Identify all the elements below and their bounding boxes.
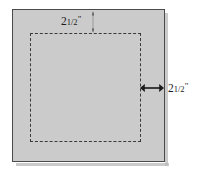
- square-shadow-bottom: [16, 163, 169, 166]
- right-dimension-unit: ": [185, 81, 189, 91]
- top-dimension-fraction: 1/2: [67, 17, 78, 27]
- right-dimension-label: 21/2": [168, 82, 188, 95]
- top-dimension-arrow-icon: [92, 11, 94, 33]
- geometry-diagram: 21/2" 21/2": [0, 0, 208, 174]
- right-dimension-fraction: 1/2: [174, 84, 185, 94]
- right-dimension-arrow-icon: [140, 82, 164, 94]
- top-dimension-unit: ": [78, 14, 82, 24]
- inner-dashed-square: [30, 33, 141, 142]
- top-dimension-label: 21/2": [61, 15, 81, 28]
